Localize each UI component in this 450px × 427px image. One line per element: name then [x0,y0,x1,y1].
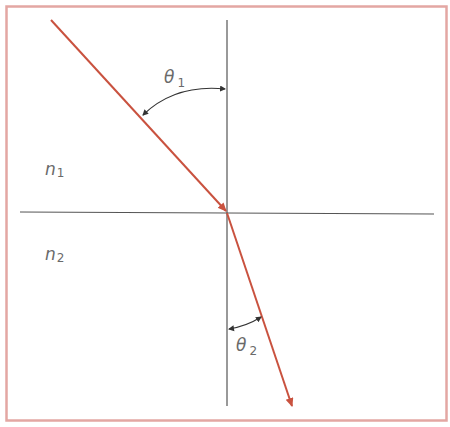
n2-label: n2 [45,244,64,265]
incident-ray [51,20,226,211]
n1-label: n1 [45,159,64,180]
refraction-diagram: θ1 θ2 n1 n2 [0,0,450,427]
theta2-arc [229,317,261,329]
theta1-label: θ1 [164,67,185,90]
theta2-label: θ2 [236,335,257,358]
refracted-ray [227,213,292,406]
theta1-arc [143,88,225,115]
